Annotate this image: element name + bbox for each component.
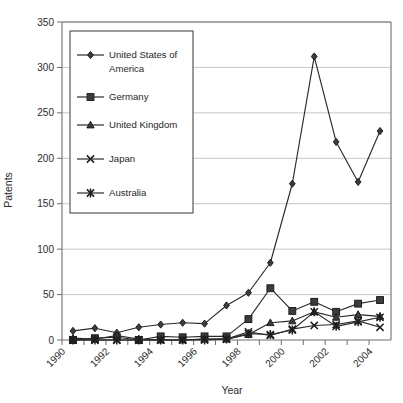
legend-item-australia[interactable]: Australia (77, 187, 147, 198)
data-point-square (245, 316, 252, 323)
x-tick-label: 1998 (219, 345, 243, 369)
y-tick-label: 350 (37, 17, 54, 28)
data-point-diamond (202, 320, 208, 327)
x-tick-label: 1992 (88, 345, 112, 369)
data-point-cross-x (376, 324, 383, 331)
data-point-diamond (158, 321, 164, 328)
data-point-square (267, 285, 274, 292)
data-point-square (377, 297, 384, 304)
data-point-diamond (289, 180, 295, 187)
y-tick-label: 250 (37, 107, 54, 118)
x-tick-label: 1990 (44, 345, 68, 369)
data-point-square (87, 94, 94, 101)
legend-label: Australia (109, 187, 147, 198)
legend-label: United Kingdom (109, 119, 177, 130)
data-point-triangle (355, 311, 362, 318)
legend-label: Germany (109, 91, 149, 102)
x-tick-label: 2004 (351, 345, 375, 369)
data-point-diamond (377, 127, 383, 134)
chart-canvas: 050100150200250300350 199019921994199619… (0, 0, 403, 403)
patents-by-country-line-chart: 050100150200250300350 199019921994199619… (0, 0, 403, 403)
y-axis-title: Patents (2, 172, 14, 208)
data-point-diamond (224, 302, 230, 309)
y-axis-ticks: 050100150200250300350 (37, 17, 62, 346)
x-tick-label: 2002 (307, 345, 331, 369)
y-tick-label: 50 (43, 289, 55, 300)
y-tick-label: 100 (37, 244, 54, 255)
legend-label: America (109, 63, 145, 74)
x-axis-ticks: 19901992199419961998200020022004 (44, 340, 375, 369)
y-tick-label: 200 (37, 153, 54, 164)
x-axis-title: Year (221, 384, 243, 396)
legend-label: United States of (109, 49, 178, 60)
data-point-diamond (136, 324, 142, 331)
data-point-square (289, 308, 296, 315)
data-point-diamond (92, 325, 98, 332)
x-tick-label: 1994 (132, 345, 156, 369)
y-tick-label: 300 (37, 62, 54, 73)
x-tick-label: 2000 (263, 345, 287, 369)
data-point-diamond (311, 53, 317, 60)
y-tick-label: 150 (37, 198, 54, 209)
y-tick-label: 0 (48, 335, 54, 346)
data-point-diamond (180, 319, 186, 326)
legend-label: Japan (109, 153, 135, 164)
x-tick-label: 1996 (176, 345, 200, 369)
data-point-square (355, 300, 362, 307)
data-point-square (311, 298, 318, 305)
chart-legend: United States ofAmericaGermanyUnited Kin… (70, 31, 193, 213)
